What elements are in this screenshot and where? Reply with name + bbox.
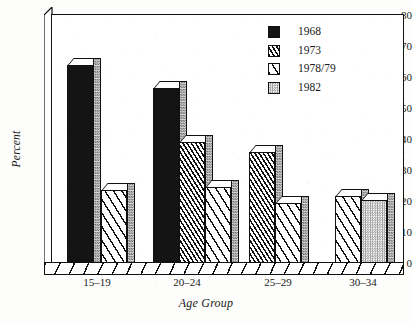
bar-group-30-34 [333, 14, 413, 270]
plot-floor-band [44, 262, 404, 275]
bar-1968-20-24 [153, 88, 179, 270]
bar-1968-15-19 [67, 65, 93, 270]
plot-area [51, 14, 404, 270]
legend-swatch-1968-icon [268, 26, 280, 38]
bar-1973-20-24 [179, 142, 205, 270]
bar-group-15-19 [65, 14, 137, 270]
bar-1978-30-34 [335, 196, 361, 270]
legend-swatch-1973-icon [268, 45, 280, 57]
x-tick-20-24: 20–24 [152, 276, 222, 288]
x-tick-15-19: 15–19 [62, 276, 132, 288]
legend-swatch-1978-icon [268, 63, 280, 75]
bar-1982-30-34 [361, 200, 387, 270]
legend-label-1973: 1973 [298, 43, 321, 58]
legend-label-1978: 1978/79 [298, 61, 336, 76]
bar-1978-25-29 [275, 203, 301, 270]
legend-label-1968: 1968 [298, 24, 321, 39]
bar-group-20-24 [151, 14, 251, 270]
legend-swatch-1982-icon [268, 82, 280, 94]
bar-1978-20-24 [205, 187, 231, 270]
y-axis-label: Percent [10, 119, 22, 179]
bar-1973-25-29 [249, 152, 275, 270]
legend-label-1982: 1982 [298, 80, 321, 95]
x-tick-25-29: 25–29 [243, 276, 313, 288]
bar-group-25-29 [247, 14, 337, 270]
x-axis-label: Age Group [0, 296, 412, 311]
bar-1978-15-19 [101, 190, 127, 270]
x-tick-30-34: 30–34 [328, 276, 398, 288]
